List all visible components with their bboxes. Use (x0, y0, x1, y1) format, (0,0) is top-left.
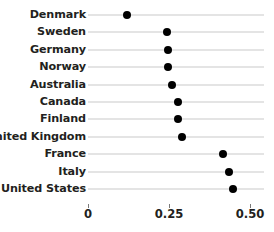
row-gridline (88, 15, 264, 16)
category-label: Finland (40, 114, 86, 125)
dot-plot-chart: DenmarkSwedenGermanyNorwayAustraliaCanad… (0, 0, 274, 232)
category-label: France (44, 149, 86, 160)
chart-row: Australia (0, 76, 274, 93)
chart-row: Canada (0, 94, 274, 111)
data-point-marker (174, 98, 182, 106)
row-gridline (88, 136, 264, 137)
row-gridline (88, 154, 264, 155)
category-label: Germany (30, 44, 86, 55)
chart-row: Finland (0, 111, 274, 128)
category-label: Norway (39, 62, 86, 73)
data-point-marker (178, 133, 186, 141)
data-point-marker (225, 168, 233, 176)
row-gridline (88, 32, 264, 33)
data-point-marker (174, 115, 182, 123)
category-label: Denmark (30, 9, 86, 20)
category-label: United Kingdom (0, 131, 86, 142)
row-gridline (88, 189, 264, 190)
category-label: United States (1, 183, 86, 194)
data-point-marker (163, 28, 171, 36)
data-point-marker (123, 11, 131, 19)
chart-row: Italy (0, 163, 274, 180)
row-gridline (88, 67, 264, 68)
data-point-marker (164, 63, 172, 71)
chart-row: Germany (0, 41, 274, 58)
category-label: Italy (58, 166, 86, 177)
chart-row: Denmark (0, 7, 274, 24)
x-axis-tick-label: 0.25 (155, 209, 184, 221)
chart-row: Norway (0, 59, 274, 76)
data-point-marker (219, 150, 227, 158)
chart-row: Sweden (0, 24, 274, 41)
row-gridline (88, 171, 264, 172)
chart-row: France (0, 146, 274, 163)
row-gridline (88, 49, 264, 50)
category-label: Sweden (37, 27, 86, 38)
clipped-caption (0, 224, 274, 232)
data-point-marker (168, 81, 176, 89)
chart-row: United States (0, 181, 274, 198)
x-axis-tick-label: 0 (84, 209, 92, 221)
plot-area: DenmarkSwedenGermanyNorwayAustraliaCanad… (0, 0, 274, 232)
x-axis-tick-label: 0.50 (236, 209, 265, 221)
category-label: Canada (40, 96, 86, 107)
chart-row: United Kingdom (0, 128, 274, 145)
data-point-marker (164, 46, 172, 54)
data-point-marker (229, 185, 237, 193)
category-label: Australia (30, 79, 86, 90)
